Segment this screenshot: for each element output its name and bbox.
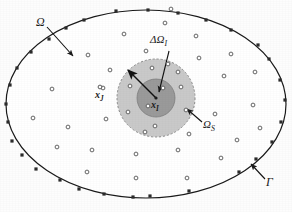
label-node-xI-subscript: I xyxy=(156,105,159,113)
field-node xyxy=(144,49,148,53)
field-node xyxy=(229,52,233,56)
figure-container: Ω Γ ΔΩI ΩS xI xJ xyxy=(0,0,292,212)
field-node xyxy=(235,138,239,142)
boundary-node xyxy=(278,78,281,81)
label-support-domain-text: Ω xyxy=(203,118,211,130)
boundary-node xyxy=(176,11,179,14)
boundary-node xyxy=(114,9,117,12)
field-node xyxy=(55,145,59,149)
boundary-node xyxy=(82,18,85,21)
field-node xyxy=(104,117,108,121)
field-node xyxy=(176,70,180,74)
field-node xyxy=(194,34,198,38)
label-boundary-gamma-text: Γ xyxy=(266,175,273,189)
boundary-node xyxy=(283,98,286,101)
label-node-xJ-subscript: J xyxy=(100,95,104,103)
field-node xyxy=(179,85,183,89)
field-node xyxy=(197,56,201,60)
field-node xyxy=(146,104,150,108)
field-node xyxy=(108,68,112,72)
boundary-node xyxy=(131,195,134,198)
boundary-node xyxy=(10,139,13,142)
field-node xyxy=(126,110,130,114)
field-node xyxy=(184,108,188,112)
boundary-node xyxy=(15,66,18,69)
boundary-leader-arrow xyxy=(251,164,265,179)
label-local-subdomain-text: ΔΩ xyxy=(150,33,164,45)
label-local-subdomain: ΔΩI xyxy=(150,34,167,48)
boundary-node xyxy=(58,178,61,181)
field-node xyxy=(153,124,157,128)
field-node xyxy=(90,148,94,152)
field-node xyxy=(161,86,165,90)
field-node xyxy=(185,176,189,180)
field-node xyxy=(134,152,138,156)
label-support-domain: ΩS xyxy=(203,119,215,133)
boundary-node xyxy=(8,83,11,86)
boundary-node xyxy=(6,120,9,123)
label-node-xJ: xJ xyxy=(95,90,104,103)
label-node-xI: xI xyxy=(151,100,159,113)
boundary-node xyxy=(254,157,257,160)
boundary-node xyxy=(47,37,50,40)
field-node xyxy=(222,74,226,78)
boundary-node xyxy=(148,194,151,197)
field-node xyxy=(31,116,35,120)
field-node xyxy=(253,70,257,74)
field-node xyxy=(128,84,132,88)
boundary-node xyxy=(279,120,282,123)
field-node xyxy=(50,87,54,91)
field-node xyxy=(213,112,217,116)
field-node xyxy=(176,148,180,152)
field-node xyxy=(187,132,191,136)
field-node xyxy=(86,53,90,57)
field-node xyxy=(219,156,223,160)
field-node xyxy=(251,103,255,107)
field-node xyxy=(134,176,138,180)
boundary-node xyxy=(64,26,67,29)
label-support-domain-subscript: S xyxy=(211,124,215,133)
field-node xyxy=(85,170,89,174)
boundary-node xyxy=(229,28,232,31)
boundary-node xyxy=(256,43,259,46)
boundary-node xyxy=(237,170,240,173)
boundary-node xyxy=(102,192,105,195)
boundary-node xyxy=(34,167,37,170)
field-node xyxy=(150,66,154,70)
boundary-node xyxy=(29,50,32,53)
boundary-node xyxy=(187,189,190,192)
field-node xyxy=(122,32,126,36)
label-domain-omega: Ω xyxy=(36,16,45,28)
field-node xyxy=(143,130,147,134)
field-node xyxy=(169,7,173,11)
label-local-subdomain-subscript: I xyxy=(164,39,167,48)
label-domain-omega-text: Ω xyxy=(36,15,45,29)
label-boundary-gamma: Γ xyxy=(266,176,273,188)
field-node xyxy=(166,62,170,66)
boundary-node xyxy=(270,140,273,143)
field-node xyxy=(258,126,262,130)
boundary-node xyxy=(267,57,270,60)
boundary-node xyxy=(146,8,149,11)
boundary-node xyxy=(204,18,207,21)
field-node xyxy=(66,125,70,129)
diagram-canvas xyxy=(0,0,292,212)
boundary-node xyxy=(77,187,80,190)
field-node xyxy=(163,21,167,25)
boundary-node xyxy=(4,102,7,105)
boundary-node xyxy=(20,153,23,156)
